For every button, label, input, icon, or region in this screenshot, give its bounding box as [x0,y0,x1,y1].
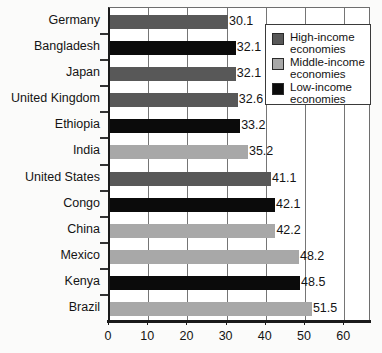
bar-united-states [110,172,271,186]
legend-label-line1: Low-income [290,81,352,93]
bar-japan [110,67,236,81]
category-label-germany: Germany [0,13,100,27]
x-tick-label-0: 0 [93,329,123,343]
legend-label-line2: economies [290,93,352,105]
x-tick-50 [304,320,305,325]
x-tick-label-20: 20 [171,329,201,343]
x-tick-40 [265,320,266,325]
bar-congo [110,198,275,212]
category-label-bangladesh: Bangladesh [0,39,100,53]
y-tick-8 [100,216,108,218]
x-tick-10 [147,320,148,325]
legend-label-middle: Middle-incomeeconomies [290,56,365,80]
category-label-brazil: Brazil [0,300,100,314]
bar-value-ethiopia: 33.2 [241,118,265,132]
y-tick-9 [100,242,108,244]
legend-label-line1: Middle-income [290,56,365,68]
category-label-japan: Japan [0,65,100,79]
y-tick-5 [100,137,108,139]
category-label-china: China [0,222,100,236]
category-label-united-states: United States [0,170,100,184]
bar-value-germany: 30.1 [229,14,253,28]
bar-germany [110,15,228,29]
legend-label-low: Low-incomeeconomies [290,81,352,105]
legend-swatch-high-icon [272,33,284,45]
x-tick-label-60: 60 [328,329,358,343]
legend-item-high[interactable]: High-incomeeconomies [272,31,355,55]
x-tick-0 [108,320,109,325]
bar-china [110,224,275,238]
x-tick-60 [343,320,344,325]
legend-label-line1: High-income [290,31,355,43]
bar-chart: GermanyBangladeshJapanUnited KingdomEthi… [0,0,382,353]
legend-item-middle[interactable]: Middle-incomeeconomies [272,56,365,80]
bar-united-kingdom [110,93,238,107]
category-label-kenya: Kenya [0,274,100,288]
bar-value-china: 42.2 [276,223,300,237]
bar-value-congo: 42.1 [276,197,300,211]
legend-swatch-middle-icon [272,58,284,70]
bar-value-japan: 32.1 [237,66,261,80]
x-tick-label-30: 30 [211,329,241,343]
bar-value-mexico: 48.2 [300,249,324,263]
category-label-mexico: Mexico [0,248,100,262]
y-tick-1 [100,33,108,35]
x-tick-20 [186,320,187,325]
y-tick-6 [100,164,108,166]
category-label-india: India [0,143,100,157]
y-tick-4 [100,111,108,113]
x-tick-label-40: 40 [250,329,280,343]
y-tick-3 [100,85,108,87]
category-axis-labels: GermanyBangladeshJapanUnited KingdomEthi… [0,0,104,325]
legend-swatch-low-icon [272,83,284,95]
legend-item-low[interactable]: Low-incomeeconomies [272,81,352,105]
y-tick-10 [100,268,108,270]
bar-bangladesh [110,41,236,55]
bar-value-united-states: 41.1 [272,171,296,185]
bar-india [110,145,248,159]
category-label-congo: Congo [0,196,100,210]
x-tick-label-50: 50 [289,329,319,343]
bar-value-bangladesh: 32.1 [237,40,261,54]
bar-value-united-kingdom: 32.6 [239,92,263,106]
bar-kenya [110,276,300,290]
y-tick-11 [100,294,108,296]
legend-label-high: High-incomeeconomies [290,31,355,55]
y-tick-7 [100,190,108,192]
bar-value-brazil: 51.5 [313,301,337,315]
category-label-ethiopia: Ethiopia [0,117,100,131]
x-tick-30 [226,320,227,325]
legend-label-line2: economies [290,43,355,55]
chart-legend: High-incomeeconomiesMiddle-incomeeconomi… [265,24,371,105]
bar-value-india: 35.2 [249,144,273,158]
bar-value-kenya: 48.5 [301,275,325,289]
bar-mexico [110,250,299,264]
bar-brazil [110,302,312,316]
bar-ethiopia [110,119,240,133]
legend-label-line2: economies [290,68,365,80]
x-tick-label-10: 10 [132,329,162,343]
category-label-united-kingdom: United Kingdom [0,91,100,105]
y-tick-2 [100,59,108,61]
